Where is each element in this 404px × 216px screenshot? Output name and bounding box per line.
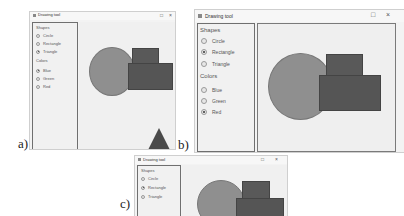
radio-icon-selected — [36, 50, 40, 54]
rectangle-shape[interactable] — [132, 48, 159, 64]
radio-icon-selected — [201, 49, 207, 55]
radio-icon-selected — [141, 186, 145, 190]
sidebar: Shapes Circle Rectangle Triangle Colors … — [197, 23, 255, 152]
radio-icon — [141, 195, 145, 199]
title-bar: Drawing tool □ × — [135, 156, 287, 164]
close-button[interactable]: × — [386, 11, 390, 18]
close-button[interactable]: × — [275, 156, 278, 162]
window-title: Drawing tool — [205, 13, 233, 19]
radio-triangle[interactable]: Triangle — [141, 194, 162, 199]
option-label: Triangle — [43, 49, 57, 54]
close-button[interactable]: × — [169, 12, 172, 18]
maximize-button[interactable]: □ — [261, 156, 264, 162]
drawing-canvas[interactable] — [257, 23, 396, 152]
triangle-shape[interactable] — [147, 128, 171, 150]
drawing-canvas[interactable] — [182, 165, 287, 216]
radio-icon — [201, 61, 207, 67]
radio-green[interactable]: Green — [36, 76, 54, 81]
caption-c: c) — [120, 196, 130, 212]
radio-icon — [201, 87, 207, 93]
rectangle-shape[interactable] — [236, 198, 284, 216]
rectangle-shape[interactable] — [326, 54, 363, 76]
maximize-button[interactable]: □ — [371, 11, 375, 18]
window-b: Drawing tool □ × Shapes Circle Rectangle… — [194, 9, 404, 153]
radio-rectangle[interactable]: Rectangle — [36, 41, 61, 46]
radio-circle[interactable]: Circle — [141, 176, 158, 181]
window-title: Drawing tool — [38, 12, 60, 17]
window-a: Drawing tool □ × Shapes Circle Rectangle… — [29, 11, 176, 150]
option-label: Triangle — [212, 61, 230, 67]
sidebar: Shapes Circle Rectangle Triangle Colors … — [32, 22, 78, 150]
option-label: Rectangle — [212, 49, 235, 55]
maximize-button[interactable]: □ — [160, 12, 163, 18]
title-bar: Drawing tool □ × — [30, 12, 175, 20]
window-c: Drawing tool □ × Shapes Circle Rectangle… — [134, 155, 288, 216]
window-title: Drawing tool — [143, 157, 165, 162]
option-label: Rectangle — [43, 41, 61, 46]
option-label: Green — [43, 76, 54, 81]
option-label: Circle — [43, 33, 53, 38]
option-label: Triangle — [148, 194, 162, 199]
caption-a: a) — [18, 136, 28, 152]
option-label: Red — [43, 84, 50, 89]
option-label: Circle — [148, 176, 158, 181]
radio-rectangle[interactable]: Rectangle — [141, 185, 166, 190]
radio-icon — [141, 177, 145, 181]
shapes-label: Shapes — [36, 25, 50, 30]
radio-triangle[interactable]: Triangle — [201, 61, 230, 67]
option-label: Rectangle — [148, 185, 166, 190]
shapes-label: Shapes — [200, 27, 220, 33]
radio-rectangle[interactable]: Rectangle — [201, 49, 235, 55]
rectangle-shape[interactable] — [128, 63, 173, 90]
radio-icon — [201, 38, 207, 44]
caption-b: b) — [178, 137, 189, 153]
option-label: Blue — [43, 68, 51, 73]
radio-red[interactable]: Red — [36, 84, 50, 89]
radio-icon — [36, 42, 40, 46]
title-bar: Drawing tool □ × — [195, 10, 404, 22]
radio-icon-selected — [201, 109, 207, 115]
option-label: Red — [212, 109, 221, 115]
option-label: Circle — [212, 38, 225, 44]
colors-label: Colors — [200, 73, 217, 79]
radio-triangle[interactable]: Triangle — [36, 49, 57, 54]
radio-green[interactable]: Green — [201, 98, 226, 104]
radio-icon — [36, 34, 40, 38]
rectangle-shape[interactable] — [242, 181, 270, 199]
radio-icon — [201, 98, 207, 104]
rectangle-shape[interactable] — [319, 75, 381, 111]
app-icon — [198, 14, 202, 18]
radio-blue[interactable]: Blue — [201, 87, 222, 93]
option-label: Green — [212, 98, 226, 104]
app-icon — [33, 14, 36, 17]
radio-blue[interactable]: Blue — [36, 68, 51, 73]
colors-label: Colors — [36, 58, 48, 63]
drawing-canvas[interactable] — [79, 22, 175, 150]
radio-icon — [36, 85, 40, 89]
shapes-label: Shapes — [141, 168, 155, 173]
radio-circle[interactable]: Circle — [201, 38, 225, 44]
app-icon — [138, 158, 141, 161]
radio-circle[interactable]: Circle — [36, 33, 53, 38]
radio-red[interactable]: Red — [201, 109, 221, 115]
sidebar: Shapes Circle Rectangle Triangle — [137, 165, 181, 216]
option-label: Blue — [212, 87, 222, 93]
radio-icon-selected — [36, 69, 40, 73]
radio-icon — [36, 77, 40, 81]
